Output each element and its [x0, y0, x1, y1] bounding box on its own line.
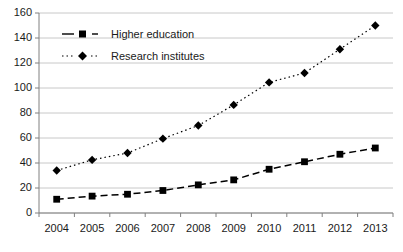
y-tick-label: 120 [0, 56, 32, 68]
series-line [57, 148, 376, 199]
data-point-marker [266, 166, 273, 173]
legend-item-higher-education: Higher education [62, 23, 205, 45]
series-higher-education [53, 145, 378, 203]
data-point-marker [53, 196, 60, 203]
x-tick-label: 2005 [74, 222, 109, 234]
data-point-marker [372, 145, 379, 152]
x-tick-label: 2006 [110, 222, 145, 234]
legend-key-dashed-square-icon [62, 27, 106, 41]
line-chart: 020406080100120140160 200420052006200720… [0, 0, 403, 252]
y-tick-label: 80 [0, 106, 32, 118]
data-point-marker [89, 193, 96, 200]
x-tick-label: 2008 [181, 222, 216, 234]
legend-label-research-institutes: Research institutes [111, 50, 205, 62]
data-point-marker [371, 21, 379, 29]
x-tick-label: 2007 [145, 222, 180, 234]
data-point-marker [159, 134, 167, 142]
y-tick-label: 40 [0, 156, 32, 168]
x-tick-label: 2011 [287, 222, 322, 234]
legend-key-dotted-diamond-icon [62, 49, 106, 63]
legend-item-research-institutes: Research institutes [62, 45, 205, 67]
data-point-marker [265, 78, 273, 86]
y-tick-label: 140 [0, 31, 32, 43]
y-tick-label: 100 [0, 81, 32, 93]
y-tick-label: 0 [0, 206, 32, 218]
data-point-marker [160, 187, 167, 194]
data-point-marker [53, 166, 61, 174]
data-point-marker [194, 121, 202, 129]
x-tick-label: 2004 [39, 222, 74, 234]
data-point-marker [301, 158, 308, 165]
data-point-marker [337, 151, 344, 158]
y-tick-label: 20 [0, 181, 32, 193]
x-tick-label: 2012 [322, 222, 357, 234]
data-point-marker [195, 181, 202, 188]
x-tick-label: 2013 [358, 222, 393, 234]
data-point-marker [300, 69, 308, 77]
data-point-marker [336, 45, 344, 53]
y-tick-label: 160 [0, 6, 32, 18]
data-point-marker [124, 191, 131, 198]
x-tick-label: 2009 [216, 222, 251, 234]
data-point-marker [123, 149, 131, 157]
data-point-marker [230, 176, 237, 183]
y-tick-label: 60 [0, 131, 32, 143]
x-tick-label: 2010 [251, 222, 286, 234]
legend-label-higher-education: Higher education [111, 28, 194, 40]
chart-legend: Higher education Research institutes [62, 23, 205, 67]
data-point-marker [230, 101, 238, 109]
